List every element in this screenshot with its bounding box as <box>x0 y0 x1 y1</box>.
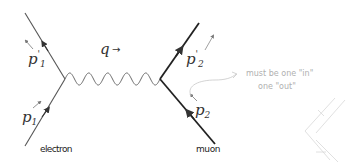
p1-arrow-icon <box>33 102 40 108</box>
label-electron: electron <box>40 144 72 154</box>
electron-outgoing-arrow-icon <box>43 43 48 51</box>
photon-propagator <box>65 73 160 85</box>
label-p1-prime: p'1 <box>28 49 46 69</box>
p2-prime-arrow-icon <box>205 36 213 50</box>
feynman-diagram: p'1 p1 p'2 p2 q → electron muon must be … <box>0 0 357 164</box>
p1-prime-arrow-icon <box>26 41 33 49</box>
q-arrow-icon: → <box>112 44 120 55</box>
annotation-line-1: must be one "in" <box>246 69 313 78</box>
label-p2: p2 <box>195 101 211 120</box>
annotation-line-2: one "out" <box>258 82 296 91</box>
label-muon: muon <box>196 144 220 154</box>
label-q: q <box>100 40 110 58</box>
annotation-curve-arrow-icon <box>190 74 236 96</box>
muon-incoming-arrow-icon <box>188 112 194 119</box>
muon-outgoing-arrow-icon <box>176 49 181 56</box>
electron-incoming-arrow-icon <box>42 109 48 117</box>
label-p1: p1 <box>22 108 37 127</box>
label-p2-prime: p'2 <box>186 49 204 69</box>
faint-sketch <box>305 98 345 162</box>
